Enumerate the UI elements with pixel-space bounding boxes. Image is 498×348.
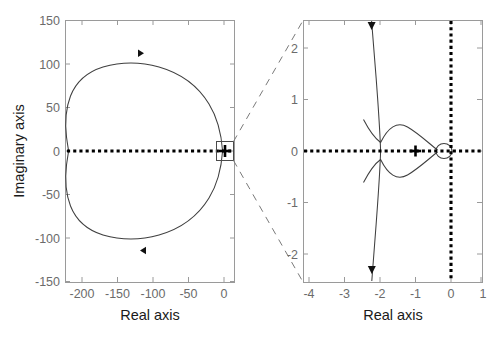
nyquist-figure: 150 100 50 0 -50 -100 -150 -200 -150 -10… xyxy=(0,0,498,348)
left-xtick-labels: -200 -150 -100 -50 0 xyxy=(69,287,227,301)
right-direction-arrow-bottom xyxy=(368,266,376,274)
left-ytick-label-neg150: -150 xyxy=(35,275,60,289)
left-ytick-label-0: 0 xyxy=(53,145,60,159)
right-ytick-label-0: 0 xyxy=(291,145,298,159)
left-xtick-label-neg50: -50 xyxy=(179,287,197,301)
left-xtick-label-neg100: -100 xyxy=(140,287,165,301)
zoom-connector-lower xyxy=(234,161,304,283)
left-ytick-label-neg100: -100 xyxy=(35,232,60,246)
left-xtick-label-neg150: -150 xyxy=(105,287,130,301)
left-xtick-label-neg200: -200 xyxy=(69,287,94,301)
right-ytick-label-neg2: -2 xyxy=(287,248,298,262)
figure-canvas: 150 100 50 0 -50 -100 -150 -200 -150 -10… xyxy=(0,0,498,348)
right-ytick-label-2: 2 xyxy=(291,42,298,56)
right-ytick-label-neg1: -1 xyxy=(287,196,298,210)
left-critical-point-plus-marker xyxy=(219,145,231,157)
left-xtick-marks xyxy=(82,20,224,282)
right-xtick-label-0: 0 xyxy=(448,287,455,301)
right-xtick-label-neg4: -4 xyxy=(303,287,314,301)
left-ytick-label-150: 150 xyxy=(39,14,60,28)
right-nyquist-lower-lobe xyxy=(364,152,438,183)
right-plot-panel: 2 1 0 -1 -2 -4 -3 -2 -1 0 1 Real axis xyxy=(287,20,487,323)
right-xtick-label-1: 1 xyxy=(480,287,487,301)
left-direction-arrow-lower xyxy=(140,247,146,255)
right-critical-point-plus-marker xyxy=(410,146,421,157)
left-yaxis-title: Imaginary axis xyxy=(11,104,27,197)
left-ytick-label-100: 100 xyxy=(39,58,60,72)
right-xtick-labels: -4 -3 -2 -1 0 1 xyxy=(303,287,486,301)
left-ytick-label-50: 50 xyxy=(46,101,60,115)
right-nyquist-upper-lobe xyxy=(364,120,438,151)
left-ytick-label-neg50: -50 xyxy=(42,188,60,202)
left-xaxis-title: Real axis xyxy=(120,307,180,323)
left-ytick-labels: 150 100 50 0 -50 -100 -150 xyxy=(35,14,60,289)
zoom-connector-upper xyxy=(234,21,304,142)
right-xtick-label-neg3: -3 xyxy=(339,287,350,301)
left-xtick-label-0: 0 xyxy=(221,287,228,301)
right-xtick-label-neg2: -2 xyxy=(374,287,385,301)
right-ytick-label-1: 1 xyxy=(291,93,298,107)
right-xaxis-title: Real axis xyxy=(363,307,423,323)
left-direction-arrow-upper xyxy=(138,49,144,57)
right-direction-arrow-top xyxy=(368,22,376,30)
left-plot-panel: 150 100 50 0 -50 -100 -150 -200 -150 -10… xyxy=(11,14,235,323)
right-xtick-label-neg1: -1 xyxy=(410,287,421,301)
right-ytick-labels: 2 1 0 -1 -2 xyxy=(287,42,298,262)
